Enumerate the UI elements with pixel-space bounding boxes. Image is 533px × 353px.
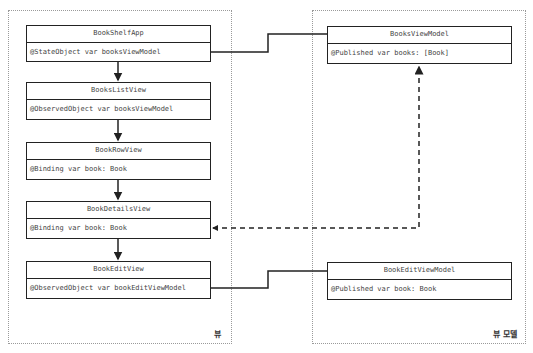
viewmodel-box-bookeditviewmodel[interactable]: BookEditViewModel @Published var book: B… xyxy=(327,262,512,300)
view-name: BookDetailsView xyxy=(27,202,210,219)
view-name: BookShelfApp xyxy=(27,26,210,43)
view-box-bookrowview[interactable]: BookRowView @Binding var book: Book xyxy=(26,142,211,180)
view-property: @ObservedObject var booksViewModel xyxy=(27,100,210,118)
view-property: @Binding var book: Book xyxy=(27,160,210,178)
view-box-bookdetailsview[interactable]: BookDetailsView @Binding var book: Book xyxy=(26,201,211,239)
view-models-container-label: 뷰 모델 xyxy=(493,328,517,339)
viewmodel-property: @Published var book: Book xyxy=(328,280,511,298)
view-name: BookRowView xyxy=(27,143,210,160)
viewmodel-name: BookEditViewModel xyxy=(328,263,511,280)
view-name: BooksListView xyxy=(27,83,210,100)
view-property: @Binding var book: Book xyxy=(27,219,210,237)
viewmodel-box-booksviewmodel[interactable]: BooksViewModel @Published var books: [Bo… xyxy=(327,26,512,64)
view-property: @StateObject var booksViewModel xyxy=(27,43,210,61)
viewmodel-name: BooksViewModel xyxy=(328,27,511,44)
view-box-bookeditview[interactable]: BookEditView @ObservedObject var bookEdi… xyxy=(26,261,211,299)
view-property: @ObservedObject var bookEditViewModel xyxy=(27,279,210,297)
view-name: BookEditView xyxy=(27,262,210,279)
views-container-label: 뷰 xyxy=(214,328,221,339)
view-box-bookslistview[interactable]: BooksListView @ObservedObject var booksV… xyxy=(26,82,211,120)
viewmodel-property: @Published var books: [Book] xyxy=(328,44,511,62)
view-box-bookshelfapp[interactable]: BookShelfApp @StateObject var booksViewM… xyxy=(26,25,211,62)
